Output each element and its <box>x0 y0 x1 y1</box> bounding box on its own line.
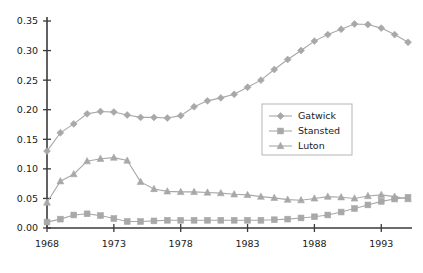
y-tick-label: 0.35 <box>17 15 38 26</box>
y-tick-label: 0.20 <box>17 104 38 115</box>
data-point <box>151 218 157 224</box>
y-tick-label: 0.00 <box>17 222 38 233</box>
legend-marker-stansted <box>278 128 284 134</box>
data-point <box>178 217 184 223</box>
data-point <box>151 185 158 191</box>
data-point <box>164 217 170 223</box>
data-point <box>84 211 90 217</box>
x-tick-label: 1983 <box>235 238 259 249</box>
data-point <box>205 217 211 223</box>
data-point <box>352 206 358 212</box>
data-point <box>110 154 117 160</box>
line-chart: 0.000.050.100.150.200.250.300.3519681973… <box>0 0 423 273</box>
data-point <box>124 219 130 225</box>
series-luton <box>44 154 412 205</box>
data-point <box>378 198 384 204</box>
data-point <box>338 26 345 33</box>
y-tick-label: 0.15 <box>17 134 38 145</box>
data-point <box>378 25 385 32</box>
series-gatwick <box>44 20 412 154</box>
data-point <box>364 21 371 28</box>
data-point <box>44 219 50 225</box>
data-point <box>137 114 144 121</box>
data-point <box>324 31 331 38</box>
data-point <box>298 215 304 221</box>
y-tick-label: 0.10 <box>17 163 38 174</box>
data-point <box>124 112 131 119</box>
data-point <box>218 217 224 223</box>
data-point <box>57 178 64 184</box>
data-point <box>244 84 251 91</box>
data-point <box>325 212 331 218</box>
data-point <box>97 108 104 115</box>
data-point <box>204 97 211 104</box>
legend-label-luton: Luton <box>298 140 325 151</box>
data-point <box>217 94 224 101</box>
x-tick-label: 1968 <box>35 238 59 249</box>
x-tick-label: 1993 <box>369 238 393 249</box>
data-point <box>150 114 157 121</box>
data-point <box>271 217 277 223</box>
y-tick-label: 0.25 <box>17 75 38 86</box>
data-point <box>285 216 291 222</box>
series-line <box>47 24 408 151</box>
data-point <box>311 38 318 45</box>
legend-label-stansted: Stansted <box>298 125 340 136</box>
data-point <box>391 31 398 38</box>
chart-figure: 0.000.050.100.150.200.250.300.3519681973… <box>0 0 423 273</box>
data-point <box>338 209 344 215</box>
y-tick-label: 0.05 <box>17 193 38 204</box>
data-point <box>324 193 331 199</box>
data-point <box>258 217 264 223</box>
data-point <box>177 112 184 119</box>
data-point <box>231 91 238 98</box>
legend-label-gatwick: Gatwick <box>298 110 337 121</box>
data-point <box>137 178 144 184</box>
data-point <box>191 217 197 223</box>
data-point <box>378 191 385 197</box>
x-tick-label: 1973 <box>102 238 126 249</box>
data-point <box>57 216 63 222</box>
data-point <box>351 20 358 27</box>
data-point <box>405 39 412 46</box>
data-point <box>44 199 51 205</box>
data-point <box>312 214 318 220</box>
data-point <box>365 202 371 208</box>
legend: GatwickStanstedLuton <box>262 104 352 155</box>
data-point <box>138 219 144 225</box>
x-tick-label: 1988 <box>302 238 326 249</box>
data-point <box>231 217 237 223</box>
data-point <box>110 109 117 116</box>
data-point <box>71 212 77 218</box>
data-point <box>98 213 104 219</box>
data-point <box>245 217 251 223</box>
data-point <box>111 216 117 222</box>
x-tick-label: 1978 <box>169 238 193 249</box>
data-point <box>191 103 198 110</box>
data-point <box>164 115 171 122</box>
data-point <box>298 47 305 54</box>
y-tick-label: 0.30 <box>17 45 38 56</box>
